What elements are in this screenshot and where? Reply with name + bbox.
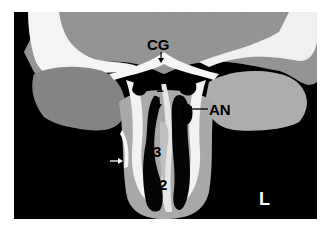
label-1: 1: [156, 80, 164, 94]
label-2: 2: [159, 177, 167, 192]
label-side-l: L: [259, 190, 270, 208]
label-cg: CG: [147, 37, 170, 52]
ethmoid-cell-left: [132, 80, 147, 95]
label-an: AN: [209, 102, 231, 117]
label-3: 3: [153, 144, 161, 159]
ct-image: CG 1 AN 3 2 L: [14, 12, 317, 219]
